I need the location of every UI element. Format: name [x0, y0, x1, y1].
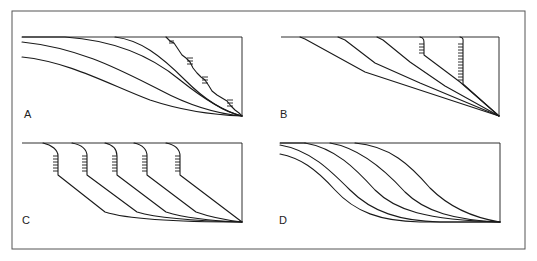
panel-label-d: D	[279, 214, 287, 226]
panel-label-c: C	[22, 214, 30, 226]
panel-c: C	[22, 143, 242, 226]
panel-label-b: B	[280, 108, 287, 120]
outer-frame	[12, 11, 525, 249]
panel-b: B	[280, 37, 499, 120]
panel-d: D	[279, 143, 500, 226]
panel-a: A	[22, 37, 242, 120]
figure: A B C	[0, 0, 537, 261]
panel-label-a: A	[24, 108, 32, 120]
